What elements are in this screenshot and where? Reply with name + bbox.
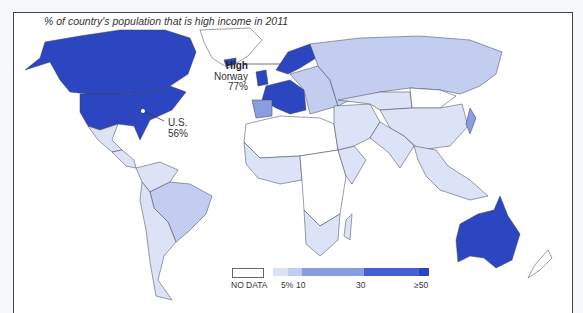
legend-bin-50-plus <box>419 268 429 276</box>
legend-no-data-label: NO DATA <box>231 280 268 290</box>
region-australia <box>456 196 520 268</box>
legend-color-bar <box>273 268 429 276</box>
legend-bin-0-5 <box>273 268 288 276</box>
region-mexico <box>88 124 122 152</box>
legend-bin-5-10 <box>288 268 302 276</box>
region-new-zealand <box>528 250 552 278</box>
annotation-norway-value: 77% <box>214 82 248 93</box>
legend-tick-50: ≥50 <box>414 280 428 290</box>
us-marker-dot <box>141 109 144 112</box>
us-annotation: U.S. 56% <box>168 118 188 139</box>
legend-tick-10: 10 <box>296 280 305 290</box>
region-canada <box>25 30 196 94</box>
annotation-high-header: High <box>214 61 248 72</box>
region-united-kingdom <box>256 70 268 86</box>
legend-bin-10-30 <box>302 268 364 276</box>
region-central-america <box>112 150 136 168</box>
legend-bin-30-50 <box>364 268 419 276</box>
norway-annotation: High Norway 77% <box>214 61 248 93</box>
region-southeast-asia <box>414 146 488 200</box>
legend-tick-5: 5% <box>281 280 293 290</box>
region-middle-east <box>334 104 380 150</box>
region-north-africa <box>244 116 338 158</box>
region-spain <box>252 100 272 118</box>
annotation-us-label: U.S. <box>168 118 188 129</box>
region-japan <box>466 108 476 134</box>
annotation-us-value: 56% <box>168 129 188 140</box>
legend-no-data-swatch <box>232 268 264 278</box>
legend-tick-30: 30 <box>356 280 365 290</box>
region-madagascar <box>344 214 352 240</box>
